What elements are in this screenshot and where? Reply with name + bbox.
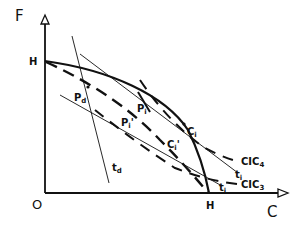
x-axis-label: C (267, 205, 277, 220)
label-pi-prime-mark: ' (131, 117, 134, 128)
label-pi: Pi (137, 104, 147, 116)
label-ci-prime-mark: ' (177, 139, 180, 150)
h-x-intercept-label: H (206, 201, 214, 211)
label-cic3: CIC3 (241, 180, 264, 192)
label-ci-sub: i (194, 131, 196, 139)
label-cic4-main: CIC (241, 156, 259, 167)
label-pd: Pd (74, 93, 86, 105)
point-ci (182, 122, 185, 125)
label-td: td (112, 163, 122, 175)
label-cic3-main: CIC (241, 179, 259, 190)
label-ti-lower-sub: i (224, 187, 226, 195)
origin-label: O (32, 198, 42, 211)
label-cic3-sub: 3 (259, 184, 264, 192)
y-axis-arrow-icon (41, 15, 49, 24)
tangent-td (72, 36, 109, 183)
label-ti-lower: ti (219, 183, 226, 195)
y-axis-label: F (15, 9, 24, 24)
label-td-sub: d (117, 167, 122, 175)
tangent-ti-upper (80, 54, 238, 173)
label-cic4: CIC4 (241, 157, 264, 169)
label-cic4-sub: 4 (259, 161, 264, 169)
label-ci-prime: Ci' (167, 140, 180, 152)
label-ci: Ci (187, 127, 197, 139)
production-possibility-diagram (0, 0, 297, 229)
label-pd-sub: d (81, 97, 86, 105)
label-pi-sub: i (144, 108, 146, 116)
h-y-intercept-label: H (29, 57, 37, 67)
point-pd (86, 85, 89, 88)
cic4-curve (140, 80, 240, 162)
label-pi-prime: Pi' (121, 118, 134, 130)
x-axis-arrow-icon (278, 189, 288, 197)
